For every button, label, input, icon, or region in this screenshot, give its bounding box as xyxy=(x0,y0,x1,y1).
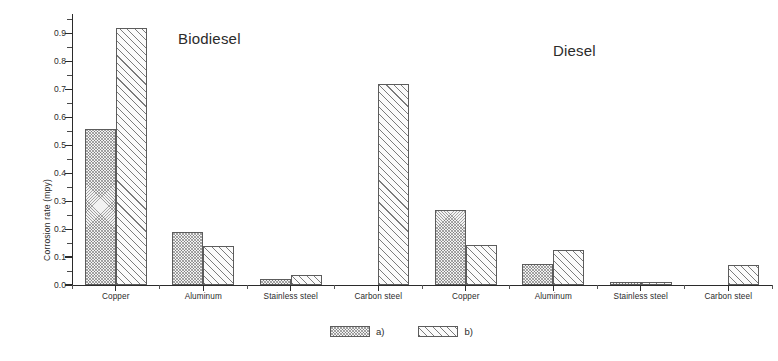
x-axis-minor-tick xyxy=(72,285,73,289)
bar-b-7[interactable] xyxy=(728,265,759,285)
plot-area: Corrosion rate (mpy) 0.00.10.20.30.40.50… xyxy=(0,0,778,361)
bar-a-0[interactable] xyxy=(85,129,116,285)
x-axis-tick xyxy=(378,285,379,291)
bar-series-container xyxy=(0,0,778,286)
legend-item-a[interactable]: a) xyxy=(330,326,384,337)
bar-b-4[interactable] xyxy=(466,245,497,286)
bar-a-5[interactable] xyxy=(522,264,553,285)
x-axis-minor-tick xyxy=(772,285,773,289)
x-axis-category-label: Aluminum xyxy=(503,292,603,302)
x-axis-category-label: Stainless steel xyxy=(591,292,691,302)
x-axis-tick xyxy=(640,285,641,291)
x-axis-minor-tick xyxy=(247,285,248,289)
legend-item-b[interactable]: b) xyxy=(418,326,472,337)
bar-b-6[interactable] xyxy=(641,282,672,285)
legend-swatch-a-icon xyxy=(330,326,370,337)
x-axis-tick xyxy=(115,285,116,291)
x-axis-category-label: Carbon steel xyxy=(678,292,778,302)
x-axis-minor-tick xyxy=(684,285,685,289)
chart-figure: Corrosion rate (mpy) 0.00.10.20.30.40.50… xyxy=(0,0,778,361)
x-axis-tick xyxy=(203,285,204,291)
bar-a-4[interactable] xyxy=(435,210,466,285)
legend-swatch-b-icon xyxy=(418,326,458,337)
x-axis-minor-tick xyxy=(509,285,510,289)
bar-b-1[interactable] xyxy=(203,246,234,285)
bar-b-2[interactable] xyxy=(291,275,322,285)
x-axis-minor-tick xyxy=(597,285,598,289)
legend-label-a: a) xyxy=(376,326,384,337)
x-axis-minor-tick xyxy=(159,285,160,289)
x-axis-category-label: Carbon steel xyxy=(328,292,428,302)
x-axis-category-label: Aluminum xyxy=(153,292,253,302)
x-axis-category-label: Copper xyxy=(66,292,166,302)
legend-label-b: b) xyxy=(464,326,472,337)
bar-b-5[interactable] xyxy=(553,250,584,285)
x-axis-tick xyxy=(553,285,554,291)
bar-b-3[interactable] xyxy=(378,84,409,285)
bar-a-2[interactable] xyxy=(260,279,291,285)
x-axis-tick xyxy=(728,285,729,291)
bar-b-0[interactable] xyxy=(116,28,147,285)
x-axis-tick xyxy=(465,285,466,291)
x-axis-tick xyxy=(290,285,291,291)
x-axis-category-label: Stainless steel xyxy=(241,292,341,302)
x-axis-category-label: Copper xyxy=(416,292,516,302)
x-axis-minor-tick xyxy=(422,285,423,289)
bar-a-6[interactable] xyxy=(610,282,641,285)
chart-legend: a) b) xyxy=(330,326,473,337)
x-axis-minor-tick xyxy=(334,285,335,289)
bar-a-1[interactable] xyxy=(172,232,203,285)
